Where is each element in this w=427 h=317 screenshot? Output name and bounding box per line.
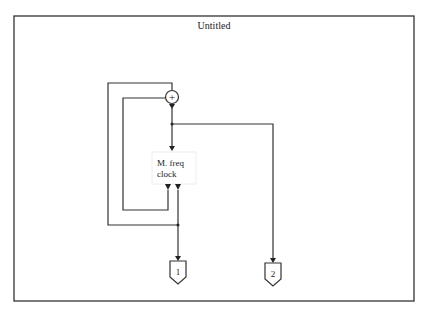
outport-2-label: 2 <box>271 269 276 279</box>
canvas-frame <box>14 16 414 301</box>
block-label-line2: clock <box>157 169 177 179</box>
sum-symbol: + <box>169 91 175 103</box>
block-label-line1: M. freq <box>157 158 184 168</box>
m-freq-clock-block[interactable]: M. freq clock <box>152 152 196 184</box>
diagram-canvas: Untitled + M. freq clock 1 2 <box>0 0 427 317</box>
window-title: Untitled <box>198 20 231 31</box>
outport-1-label: 1 <box>176 267 181 277</box>
